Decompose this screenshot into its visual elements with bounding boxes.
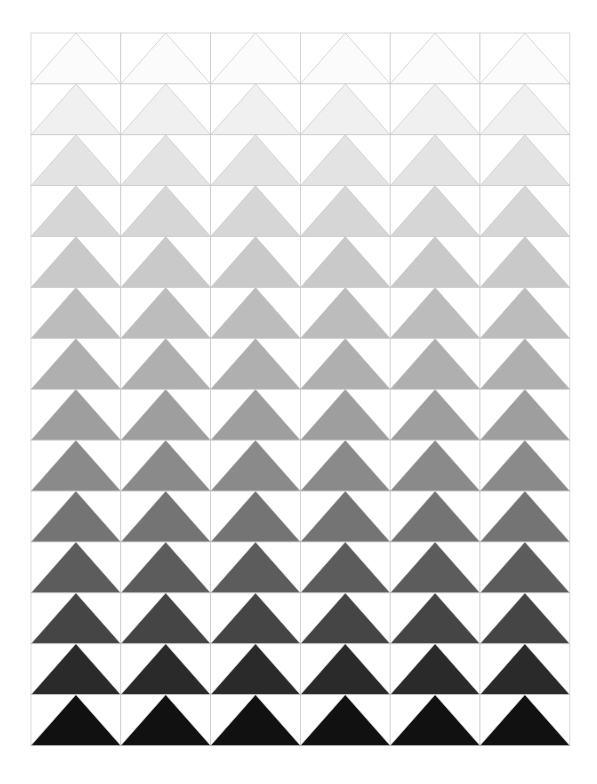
triangle-cell: [31, 644, 121, 695]
triangle-cell: [390, 84, 480, 135]
cell-group: [31, 33, 570, 746]
triangle-gradient-grid: [0, 0, 597, 784]
triangle-cell: [300, 135, 390, 186]
triangle-cell: [480, 135, 570, 186]
triangle-cell: [480, 695, 570, 746]
grid-row: [31, 338, 570, 389]
triangle-cell: [121, 237, 211, 288]
triangle-cell: [211, 695, 301, 746]
triangle-cell: [390, 440, 480, 491]
triangle-cell: [390, 338, 480, 389]
grid-row: [31, 84, 570, 135]
triangle-cell: [300, 644, 390, 695]
triangle-cell: [211, 237, 301, 288]
triangle-cell: [121, 542, 211, 593]
grid-row: [31, 440, 570, 491]
triangle-cell: [390, 644, 480, 695]
triangle-cell: [390, 33, 480, 84]
triangle-cell: [31, 237, 121, 288]
triangle-cell: [480, 237, 570, 288]
grid-row: [31, 593, 570, 644]
triangle-cell: [31, 491, 121, 542]
triangle-cell: [31, 542, 121, 593]
triangle-cell: [121, 440, 211, 491]
triangle-cell: [480, 33, 570, 84]
triangle-cell: [121, 288, 211, 339]
triangle-cell: [480, 593, 570, 644]
triangle-cell: [300, 288, 390, 339]
triangle-cell: [480, 288, 570, 339]
triangle-cell: [390, 237, 480, 288]
triangle-cell: [121, 84, 211, 135]
triangle-cell: [390, 186, 480, 237]
grid-row: [31, 695, 570, 746]
triangle-cell: [300, 338, 390, 389]
triangle-cell: [211, 135, 301, 186]
triangle-cell: [480, 491, 570, 542]
triangle-cell: [390, 288, 480, 339]
triangle-cell: [480, 84, 570, 135]
triangle-cell: [31, 389, 121, 440]
triangle-cell: [211, 542, 301, 593]
triangle-cell: [121, 389, 211, 440]
triangle-cell: [211, 33, 301, 84]
triangle-cell: [300, 186, 390, 237]
triangle-cell: [211, 338, 301, 389]
triangle-cell: [390, 542, 480, 593]
triangle-cell: [390, 491, 480, 542]
triangle-cell: [121, 135, 211, 186]
triangle-cell: [480, 644, 570, 695]
triangle-cell: [300, 237, 390, 288]
triangle-cell: [390, 695, 480, 746]
triangle-cell: [211, 491, 301, 542]
triangle-cell: [300, 389, 390, 440]
triangle-cell: [480, 338, 570, 389]
triangle-cell: [300, 440, 390, 491]
triangle-cell: [211, 389, 301, 440]
triangle-cell: [121, 593, 211, 644]
triangle-cell: [480, 186, 570, 237]
grid-row: [31, 135, 570, 186]
triangle-cell: [300, 542, 390, 593]
triangle-cell: [390, 135, 480, 186]
triangle-cell: [211, 288, 301, 339]
triangle-cell: [31, 33, 121, 84]
triangle-cell: [300, 491, 390, 542]
triangle-cell: [480, 440, 570, 491]
triangle-cell: [31, 186, 121, 237]
grid-row: [31, 33, 570, 84]
triangle-cell: [300, 33, 390, 84]
triangle-cell: [31, 135, 121, 186]
triangle-cell: [31, 593, 121, 644]
triangle-cell: [31, 338, 121, 389]
triangle-cell: [121, 491, 211, 542]
triangle-cell: [211, 440, 301, 491]
triangle-cell: [211, 593, 301, 644]
triangle-cell: [480, 389, 570, 440]
triangle-cell: [390, 389, 480, 440]
grid-row: [31, 491, 570, 542]
artwork-canvas: [0, 0, 597, 784]
grid-row: [31, 389, 570, 440]
triangle-cell: [121, 695, 211, 746]
grid-row: [31, 237, 570, 288]
triangle-cell: [480, 542, 570, 593]
grid-row: [31, 288, 570, 339]
triangle-cell: [211, 186, 301, 237]
grid-row: [31, 542, 570, 593]
triangle-cell: [31, 288, 121, 339]
grid-row: [31, 644, 570, 695]
triangle-cell: [300, 593, 390, 644]
grid-row: [31, 186, 570, 237]
triangle-cell: [31, 84, 121, 135]
triangle-cell: [31, 440, 121, 491]
triangle-cell: [121, 338, 211, 389]
triangle-cell: [300, 84, 390, 135]
triangle-cell: [211, 84, 301, 135]
triangle-cell: [121, 186, 211, 237]
triangle-cell: [390, 593, 480, 644]
triangle-cell: [300, 695, 390, 746]
triangle-cell: [31, 695, 121, 746]
triangle-cell: [121, 33, 211, 84]
triangle-cell: [211, 644, 301, 695]
